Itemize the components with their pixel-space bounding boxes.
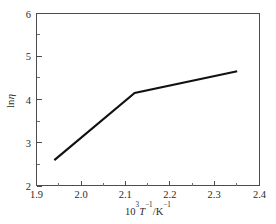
line-chart: 1.9 2.0 2.1 2.2 2.3 2.4 2 3 4 5 6 lnη 10… <box>0 0 276 224</box>
y-tick-label: 6 <box>26 9 31 20</box>
y-tick-label: 3 <box>26 138 31 149</box>
x-axis-title-unit-exponent: −1 <box>163 201 171 209</box>
y-tick-label: 5 <box>26 51 31 62</box>
x-tick-labels: 1.9 2.0 2.1 2.2 2.3 2.4 <box>30 189 267 200</box>
x-tick-label: 2.2 <box>163 189 176 200</box>
x-tick-label: 2.1 <box>119 189 132 200</box>
y-tick-label: 2 <box>26 181 31 192</box>
y-tick-labels: 2 3 4 5 6 <box>26 9 32 193</box>
y-axis-title: lnη <box>5 94 16 108</box>
x-axis-title-base: 10 <box>125 206 136 217</box>
plot-background <box>36 13 260 186</box>
y-tick-label: 4 <box>26 95 32 106</box>
y-axis-title-prefix: ln <box>5 99 16 108</box>
svg-text:lnη: lnη <box>5 94 16 108</box>
x-tick-label: 2.0 <box>75 189 88 200</box>
svg-text:103T−1/K−1: 103T−1/K−1 <box>125 201 171 217</box>
chart-figure: 1.9 2.0 2.1 2.2 2.3 2.4 2 3 4 5 6 lnη 10… <box>0 0 276 224</box>
y-axis-title-symbol: η <box>5 94 16 99</box>
x-tick-label: 2.4 <box>253 189 267 200</box>
x-tick-label: 1.9 <box>30 189 43 200</box>
x-tick-label: 2.3 <box>208 189 221 200</box>
x-axis-title: 103T−1/K−1 <box>125 201 171 217</box>
